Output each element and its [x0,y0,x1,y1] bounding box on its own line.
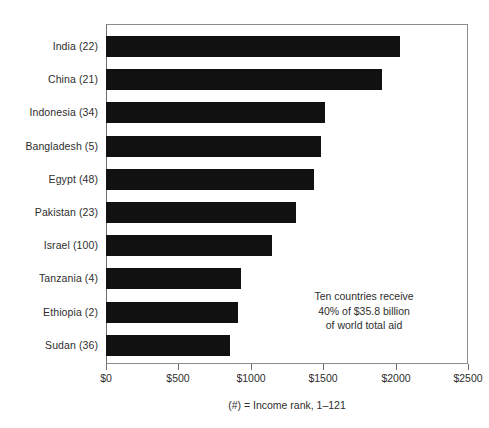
x-axis-tick [106,364,107,370]
bar [106,268,241,289]
x-axis-tick-label: $500 [166,372,189,384]
category-label: China (21) [0,69,98,90]
category-label: Indonesia (34) [0,102,98,123]
category-label: Tanzania (4) [0,268,98,289]
bar [106,235,272,256]
bar [106,302,238,323]
annotation-line-1: Ten countries receive [284,289,444,304]
x-axis-tick-label: $1000 [236,372,265,384]
x-axis-tick-label: $2000 [381,372,410,384]
bar [106,136,321,157]
annotation-line-2: 40% of $35.8 billion [284,304,444,319]
bar [106,36,400,57]
category-label: Bangladesh (5) [0,136,98,157]
chart-caption: (#) = Income rank, 1–121 [106,399,468,411]
x-axis-tick [323,364,324,370]
annotation-line-3: of world total aid [284,318,444,333]
x-axis-tick-label: $0 [100,372,112,384]
bar [106,169,314,190]
x-axis-tick-label: $1500 [308,372,337,384]
category-label: Pakistan (23) [0,202,98,223]
bar [106,69,382,90]
x-axis-tick-label: $2500 [453,372,482,384]
category-label: Ethiopia (2) [0,302,98,323]
bar-chart: India (22)China (21)Indonesia (34)Bangla… [0,0,489,428]
x-axis: $0$500$1000$1500$2000$2500 [106,364,468,394]
category-label: India (22) [0,36,98,57]
bar [106,202,296,223]
x-axis-tick [178,364,179,370]
bar [106,335,230,356]
x-axis-tick [251,364,252,370]
category-label: Egypt (48) [0,169,98,190]
chart-annotation: Ten countries receive 40% of $35.8 billi… [284,289,444,333]
bar [106,102,325,123]
category-label: Israel (100) [0,235,98,256]
category-label: Sudan (36) [0,335,98,356]
x-axis-tick [396,364,397,370]
x-axis-tick [468,364,469,370]
